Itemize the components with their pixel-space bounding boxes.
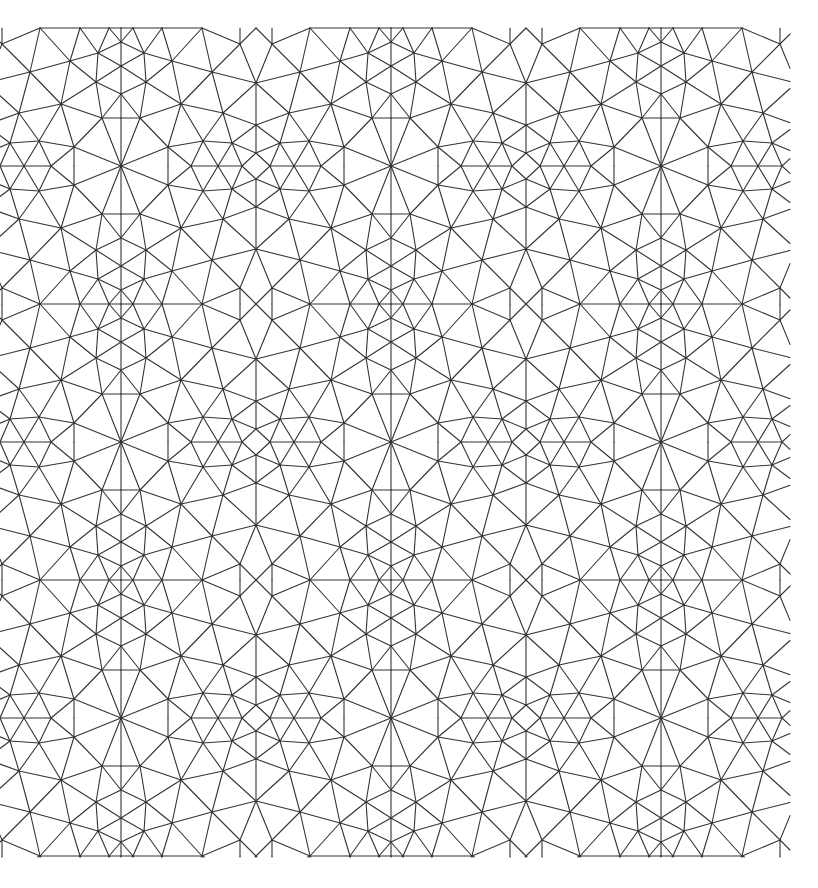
mesh-edge [0, 113, 19, 120]
mesh-edge [70, 337, 96, 358]
mesh-edge [680, 214, 721, 228]
mesh-edge [502, 189, 526, 207]
mesh-edge [294, 141, 309, 166]
mesh-edge [256, 166, 270, 179]
mesh-edge [162, 547, 172, 580]
mesh-edge [649, 842, 661, 856]
mesh-edge [708, 718, 731, 737]
mesh-edge [168, 737, 181, 780]
mesh-edge [74, 699, 121, 718]
mesh-edge [109, 580, 121, 594]
mesh-edge [542, 304, 580, 320]
mesh-edge [620, 28, 638, 53]
mesh-edge [203, 743, 223, 771]
mesh-edge [133, 580, 144, 605]
mesh-edge [144, 831, 162, 856]
mesh-edge [140, 394, 168, 423]
mesh-edge [708, 442, 731, 461]
mesh-edge [559, 389, 579, 417]
mesh-edge [96, 634, 102, 670]
mesh-edge [661, 670, 680, 718]
mesh-edge [391, 766, 410, 790]
mesh-edge [391, 53, 414, 66]
mesh-edge [121, 329, 144, 342]
mesh-edge [289, 389, 309, 417]
mesh-edge [661, 394, 680, 442]
mesh-edge [133, 279, 144, 304]
mesh-edge [482, 348, 493, 389]
mesh-edge [391, 790, 416, 802]
mesh-edge [61, 613, 70, 656]
mesh-edge [366, 490, 372, 526]
mesh-edge [0, 741, 10, 749]
mesh-edge [752, 219, 763, 260]
mesh-edge [140, 185, 168, 214]
mesh-edge [391, 28, 403, 42]
mesh-edge [493, 189, 502, 219]
mesh-edge [610, 802, 636, 823]
mesh-edge [391, 566, 403, 580]
mesh-edge [684, 28, 702, 53]
mesh-edge [309, 380, 331, 417]
mesh-edge [410, 358, 416, 394]
mesh-edge [601, 358, 636, 380]
mesh-edge [579, 656, 601, 693]
mesh-edge [661, 618, 686, 634]
mesh-edge [526, 249, 542, 288]
mesh-edge [0, 253, 30, 261]
mesh-edge [98, 266, 121, 279]
mesh-edge [610, 337, 636, 358]
mesh-edge [391, 605, 414, 618]
mesh-edge [438, 442, 461, 461]
mesh-edge [181, 72, 212, 104]
mesh-edge [559, 467, 579, 495]
mesh-edge [368, 28, 379, 53]
mesh-edge [331, 380, 372, 394]
mesh-edge [391, 618, 416, 634]
mesh-edge [366, 766, 372, 802]
mesh-edge [721, 380, 763, 389]
mesh-edge [661, 699, 708, 718]
mesh-edge [526, 741, 550, 759]
mesh-edge [309, 693, 344, 699]
mesh-edge [601, 228, 610, 271]
mesh-edge [758, 166, 772, 189]
mesh-edge [19, 495, 30, 536]
mesh-edge [731, 693, 743, 718]
mesh-edge [223, 665, 256, 677]
mesh-edge [289, 771, 300, 812]
mesh-edge [340, 580, 350, 613]
mesh-edge [526, 759, 559, 771]
mesh-edge [280, 417, 309, 419]
mesh-edge [140, 656, 181, 670]
mesh-edge [10, 113, 19, 143]
mesh-edge [661, 490, 680, 514]
mesh-edge [473, 743, 493, 771]
mesh-edge [98, 818, 121, 831]
mesh-edge [610, 547, 638, 555]
mesh-edge [191, 166, 203, 191]
mesh-edge [98, 555, 109, 580]
mesh-edge [550, 143, 564, 166]
mesh-edge [98, 555, 121, 566]
mesh-edge [661, 646, 680, 670]
mesh-edge [256, 856, 257, 857]
mesh-edge [96, 802, 121, 818]
mesh-edge [61, 380, 74, 423]
mesh-edge [24, 718, 39, 743]
mesh-edge [542, 840, 580, 856]
mesh-edge [181, 104, 203, 141]
mesh-edge [712, 28, 742, 61]
mesh-edge [488, 166, 502, 189]
mesh-edge [368, 555, 379, 580]
mesh-edge [223, 741, 232, 771]
mesh-edge [0, 805, 30, 813]
mesh-edge [570, 812, 580, 856]
mesh-edge [642, 442, 661, 490]
mesh-edge [570, 72, 601, 104]
mesh-edge [242, 442, 256, 455]
mesh-edge [0, 688, 10, 696]
mesh-edge [510, 596, 526, 635]
mesh-edge [451, 504, 482, 536]
mesh-edge [366, 358, 372, 394]
